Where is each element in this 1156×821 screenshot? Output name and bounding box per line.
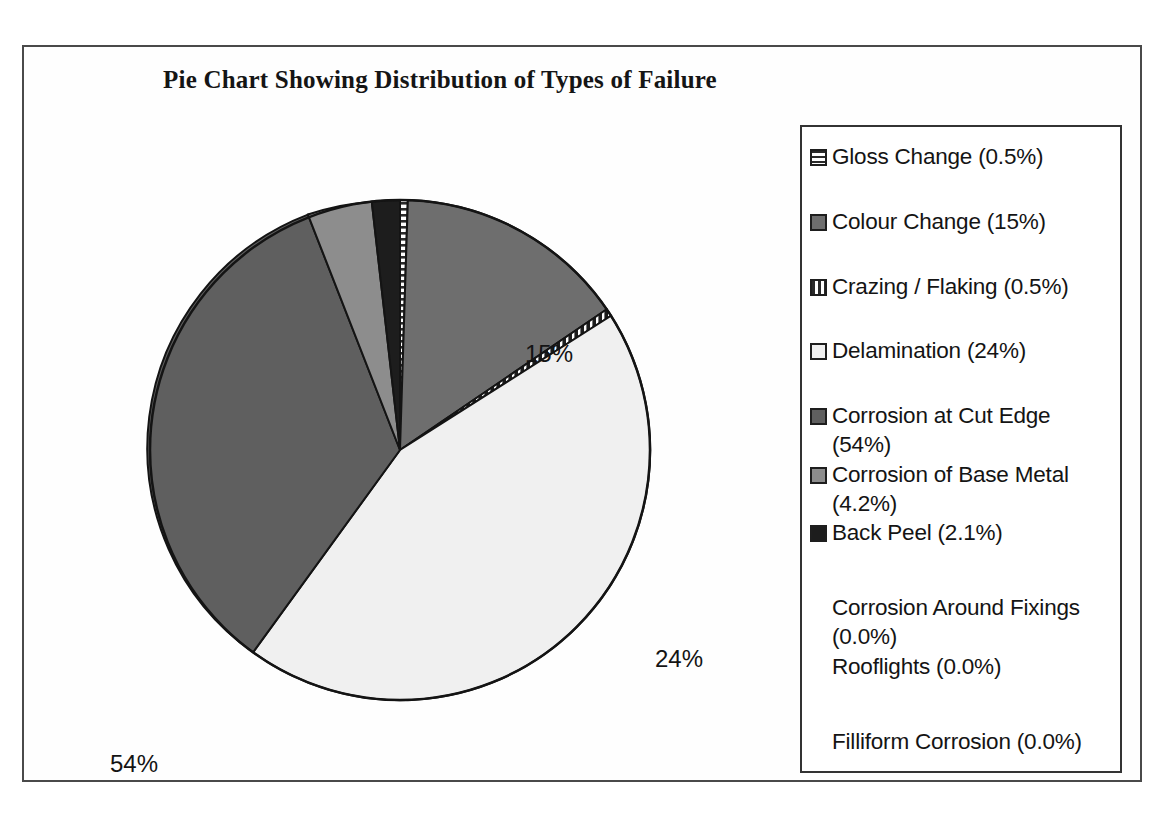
legend-item: Back Peel (2.1%) [810, 519, 1114, 548]
legend-item: Gloss Change (0.5%) [810, 143, 1114, 172]
legend-swatch-back-peel [810, 525, 827, 542]
legend-swatch-corrosion-base-metal [810, 467, 827, 484]
legend-label-gloss-change: Gloss Change (0.5%) [832, 143, 1043, 172]
legend-swatch-gloss-change [810, 149, 827, 166]
pie-label-delamination: 24% [655, 645, 703, 673]
pie-chart-graphic [140, 190, 660, 710]
legend-swatch-corrosion-cut-edge [810, 408, 827, 425]
legend-item: Corrosion at Cut Edge (54%) [810, 402, 1114, 460]
legend-swatch-filliform-corrosion [810, 734, 827, 751]
legend-label-corrosion-cut-edge: Corrosion at Cut Edge (54%) [832, 402, 1114, 460]
legend-label-crazing-flaking: Crazing / Flaking (0.5%) [832, 273, 1069, 302]
legend-item: Corrosion Around Fixings (0.0%) [810, 594, 1114, 652]
legend-swatch-delamination [810, 343, 827, 360]
legend-label-corrosion-around-fixings: Corrosion Around Fixings (0.0%) [832, 594, 1114, 652]
pie-label-colour-change: 15% [525, 340, 573, 368]
legend-item: Corrosion of Base Metal (4.2%) [810, 461, 1114, 519]
legend: Gloss Change (0.5%) Colour Change (15%) … [800, 125, 1122, 773]
pie-label-corrosion-cut-edge: 54% [110, 750, 158, 778]
legend-swatch-rooflights [810, 659, 827, 676]
legend-item: Delamination (24%) [810, 337, 1114, 366]
legend-item: Colour Change (15%) [810, 208, 1114, 237]
page-title: Pie Chart Showing Distribution of Types … [120, 66, 760, 94]
legend-item: Filliform Corrosion (0.0%) [810, 728, 1114, 757]
legend-swatch-corrosion-around-fixings [810, 600, 827, 617]
legend-label-corrosion-base-metal: Corrosion of Base Metal (4.2%) [832, 461, 1114, 519]
legend-label-rooflights: Rooflights (0.0%) [832, 653, 1001, 682]
legend-swatch-crazing-flaking [810, 279, 827, 296]
legend-item: Crazing / Flaking (0.5%) [810, 273, 1114, 302]
legend-label-filliform-corrosion: Filliform Corrosion (0.0%) [832, 728, 1082, 757]
legend-item: Rooflights (0.0%) [810, 653, 1114, 682]
legend-label-back-peel: Back Peel (2.1%) [832, 519, 1003, 548]
pie-chart-area: 15% 24% 54% Sample Size: 192 Failures [40, 150, 760, 770]
legend-swatch-colour-change [810, 214, 827, 231]
legend-label-colour-change: Colour Change (15%) [832, 208, 1046, 237]
legend-label-delamination: Delamination (24%) [832, 337, 1026, 366]
